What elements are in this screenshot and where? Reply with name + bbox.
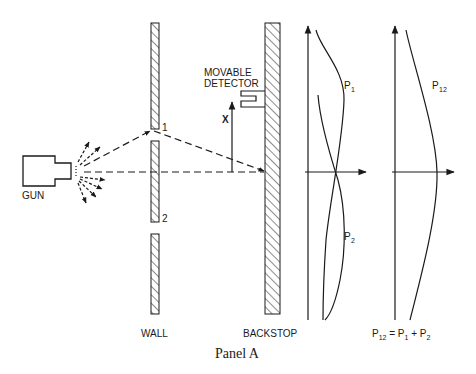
wall: 1 2 WALL (141, 23, 168, 339)
electron-paths (84, 131, 264, 172)
graph-individual-probabilities (305, 26, 366, 320)
svg-text:P: P (344, 231, 351, 242)
p1-label: P 1 (344, 80, 355, 93)
p1-curve (316, 30, 344, 320)
p12-label: P 12 (432, 80, 447, 93)
svg-text:2: 2 (351, 237, 355, 244)
p12-curve (406, 30, 437, 320)
svg-text:P12 = P1 + P2: P12 = P1 + P2 (372, 328, 431, 341)
svg-text:12: 12 (439, 86, 447, 93)
x-label: X (222, 114, 229, 125)
slit-2-label: 2 (162, 213, 168, 224)
detector-label-line2: DETECTOR (204, 78, 259, 89)
gun-label: GUN (22, 190, 44, 201)
svg-text:P: P (344, 80, 351, 91)
x-axis-arrow: X (222, 102, 232, 172)
graph-combined-probability (392, 26, 454, 320)
slit-1-label: 1 (162, 122, 168, 133)
detector-label-line1: MOVABLE (204, 67, 252, 78)
equation-label: P12 = P1 + P2 (372, 328, 431, 341)
svg-text:P: P (432, 80, 439, 91)
p2-curve (318, 95, 344, 320)
p2-label: P 2 (344, 231, 355, 244)
gun: GUN (22, 156, 71, 201)
wall-label: WALL (141, 328, 168, 339)
double-slit-diagram: GUN 1 2 WALL BACKSTOP MOVABLE DETECTOR (0, 0, 476, 374)
svg-text:1: 1 (351, 86, 355, 93)
backstop-label: BACKSTOP (243, 328, 298, 339)
movable-detector: MOVABLE DETECTOR (204, 67, 265, 107)
panel-caption: Panel A (215, 346, 260, 361)
